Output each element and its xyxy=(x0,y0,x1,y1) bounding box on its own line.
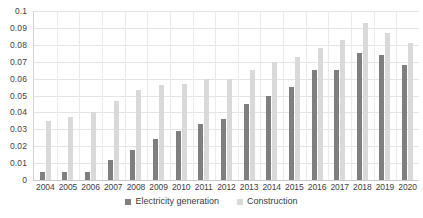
bar-construction xyxy=(159,85,164,180)
bar-electricity-generation xyxy=(153,139,158,180)
x-axis-tick-label: 2018 xyxy=(351,183,374,192)
bar-construction xyxy=(114,101,119,180)
bar-electricity-generation xyxy=(334,70,339,180)
legend-swatch-icon xyxy=(237,199,243,205)
bar-electricity-generation xyxy=(312,70,317,180)
bar-group xyxy=(260,11,283,180)
x-axis-tick-label: 2016 xyxy=(306,183,329,192)
bar-construction xyxy=(204,79,209,180)
legend-swatch-icon xyxy=(125,199,131,205)
chart-legend: Electricity generationConstruction xyxy=(0,197,423,206)
y-axis-tick-label: 0 xyxy=(22,176,27,185)
bars-layer xyxy=(34,11,419,180)
bar-electricity-generation xyxy=(108,160,113,180)
x-axis-tick-label: 2020 xyxy=(396,183,419,192)
bar-group xyxy=(102,11,125,180)
bar-electricity-generation xyxy=(40,172,45,180)
y-axis-tick-label: 0.06 xyxy=(10,74,27,83)
y-axis-tick-label: 0.05 xyxy=(10,91,27,100)
legend-item[interactable]: Electricity generation xyxy=(125,197,219,206)
bar-chart: 00.010.020.030.040.050.060.070.080.090.1… xyxy=(0,0,423,218)
bar-construction xyxy=(182,84,187,180)
bar-electricity-generation xyxy=(85,172,90,180)
bar-group xyxy=(351,11,374,180)
bar-electricity-generation xyxy=(176,131,181,180)
bar-group xyxy=(57,11,80,180)
x-axis-tick-label: 2017 xyxy=(328,183,351,192)
bar-electricity-generation xyxy=(130,150,135,180)
x-axis-tick-label: 2008 xyxy=(125,183,148,192)
x-axis-tick-label: 2004 xyxy=(34,183,57,192)
plot-area xyxy=(33,11,419,181)
x-axis-tick-label: 2010 xyxy=(170,183,193,192)
bar-electricity-generation xyxy=(244,104,249,180)
bar-construction xyxy=(272,62,277,180)
x-axis: 2004200520062007200820092010201120122013… xyxy=(34,183,419,192)
x-axis-tick-label: 2009 xyxy=(147,183,170,192)
x-axis-tick-label: 2014 xyxy=(260,183,283,192)
legend-label: Electricity generation xyxy=(135,197,219,206)
bar-construction xyxy=(46,121,51,180)
y-axis-tick-label: 0.04 xyxy=(10,108,27,117)
bar-construction xyxy=(68,117,73,180)
y-axis: 00.010.020.030.040.050.060.070.080.090.1 xyxy=(0,0,30,186)
bar-electricity-generation xyxy=(379,55,384,180)
x-axis-tick-label: 2006 xyxy=(79,183,102,192)
x-axis-tick-label: 2007 xyxy=(102,183,125,192)
y-axis-tick-label: 0.07 xyxy=(10,57,27,66)
legend-item[interactable]: Construction xyxy=(237,197,298,206)
bar-group xyxy=(170,11,193,180)
x-axis-tick-label: 2019 xyxy=(374,183,397,192)
bar-construction xyxy=(408,43,413,180)
bar-construction xyxy=(250,70,255,180)
bar-electricity-generation xyxy=(221,119,226,180)
legend-label: Construction xyxy=(247,197,298,206)
bar-construction xyxy=(318,48,323,180)
bar-group xyxy=(215,11,238,180)
bar-construction xyxy=(91,112,96,180)
bar-construction xyxy=(385,33,390,180)
bar-group xyxy=(79,11,102,180)
bar-construction xyxy=(363,23,368,180)
bar-group xyxy=(328,11,351,180)
bar-construction xyxy=(295,57,300,180)
bar-construction xyxy=(136,90,141,180)
bar-electricity-generation xyxy=(289,87,294,180)
y-axis-tick-label: 0.03 xyxy=(10,125,27,134)
bar-group xyxy=(192,11,215,180)
bar-electricity-generation xyxy=(266,96,271,181)
bar-electricity-generation xyxy=(198,124,203,180)
bar-construction xyxy=(340,40,345,180)
bar-electricity-generation xyxy=(357,53,362,180)
bar-group xyxy=(374,11,397,180)
bar-group xyxy=(147,11,170,180)
x-axis-tick-label: 2013 xyxy=(238,183,261,192)
x-axis-tick-label: 2015 xyxy=(283,183,306,192)
y-axis-tick-label: 0.02 xyxy=(10,142,27,151)
y-axis-tick-label: 0.09 xyxy=(10,24,27,33)
bar-group xyxy=(238,11,261,180)
y-axis-tick-label: 0.1 xyxy=(15,7,27,16)
bar-electricity-generation xyxy=(62,172,67,180)
bar-group xyxy=(396,11,419,180)
bar-group xyxy=(283,11,306,180)
y-axis-tick-label: 0.01 xyxy=(10,159,27,168)
x-axis-tick-label: 2005 xyxy=(57,183,80,192)
bar-group xyxy=(306,11,329,180)
y-axis-tick-label: 0.08 xyxy=(10,41,27,50)
x-axis-tick-label: 2012 xyxy=(215,183,238,192)
bar-electricity-generation xyxy=(402,65,407,180)
x-axis-tick-label: 2011 xyxy=(192,183,215,192)
bar-construction xyxy=(227,79,232,180)
plot-wrapper: 00.010.020.030.040.050.060.070.080.090.1… xyxy=(0,0,423,186)
bar-group xyxy=(125,11,148,180)
bar-group xyxy=(34,11,57,180)
